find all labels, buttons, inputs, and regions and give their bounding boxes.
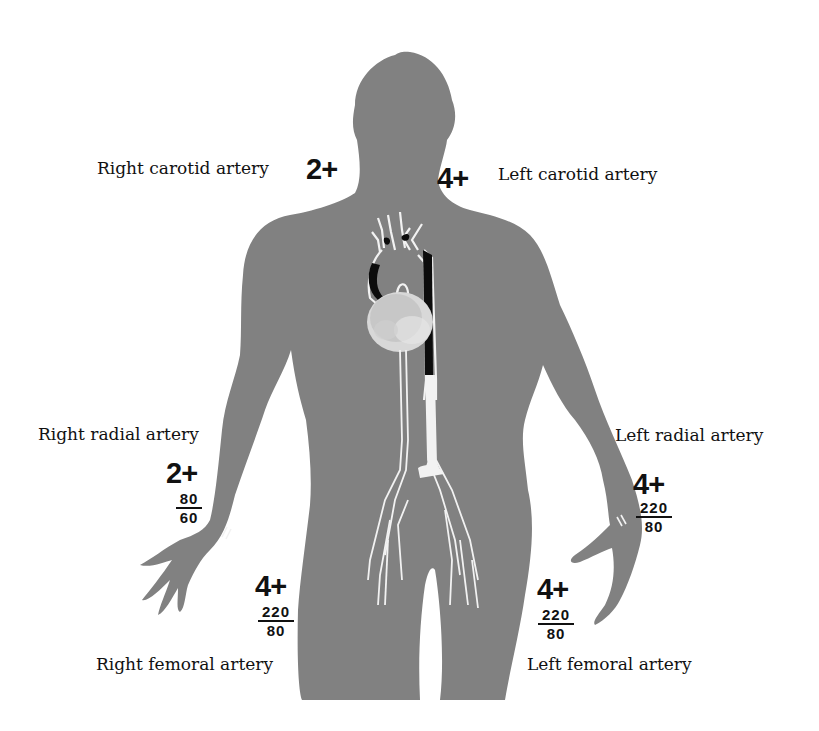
left-femoral-systolic: 220 xyxy=(538,607,574,625)
right-femoral-diastolic: 80 xyxy=(258,622,294,638)
left-radial-diastolic: 80 xyxy=(636,518,672,534)
right-femoral-bp: 220 80 xyxy=(258,604,294,638)
left-radial-bp: 220 80 xyxy=(636,500,672,534)
right-radial-bp: 80 60 xyxy=(176,491,202,525)
right-femoral-grade: 4+ xyxy=(255,572,286,601)
left-femoral-bp: 220 80 xyxy=(538,607,574,641)
right-femoral-label: Right femoral artery xyxy=(96,656,273,673)
right-radial-diastolic: 60 xyxy=(176,509,202,525)
left-carotid-grade: 4+ xyxy=(437,164,468,193)
right-radial-grade: 2+ xyxy=(166,459,197,488)
left-carotid-label: Left carotid artery xyxy=(498,166,657,183)
right-carotid-label: Right carotid artery xyxy=(97,160,269,177)
right-femoral-systolic: 220 xyxy=(258,604,294,622)
left-radial-label: Left radial artery xyxy=(615,427,763,444)
left-radial-systolic: 220 xyxy=(636,500,672,518)
left-radial-grade: 4+ xyxy=(633,470,664,499)
right-radial-systolic: 80 xyxy=(176,491,202,509)
heart-icon xyxy=(367,292,433,352)
pulse-diagram: Right carotid artery 2+ 4+ Left carotid … xyxy=(0,0,819,731)
left-femoral-grade: 4+ xyxy=(537,575,568,604)
left-femoral-diastolic: 80 xyxy=(538,625,574,641)
right-radial-label: Right radial artery xyxy=(38,426,199,443)
right-carotid-grade: 2+ xyxy=(306,155,337,184)
body-silhouette xyxy=(0,0,819,731)
left-femoral-label: Left femoral artery xyxy=(527,656,692,673)
